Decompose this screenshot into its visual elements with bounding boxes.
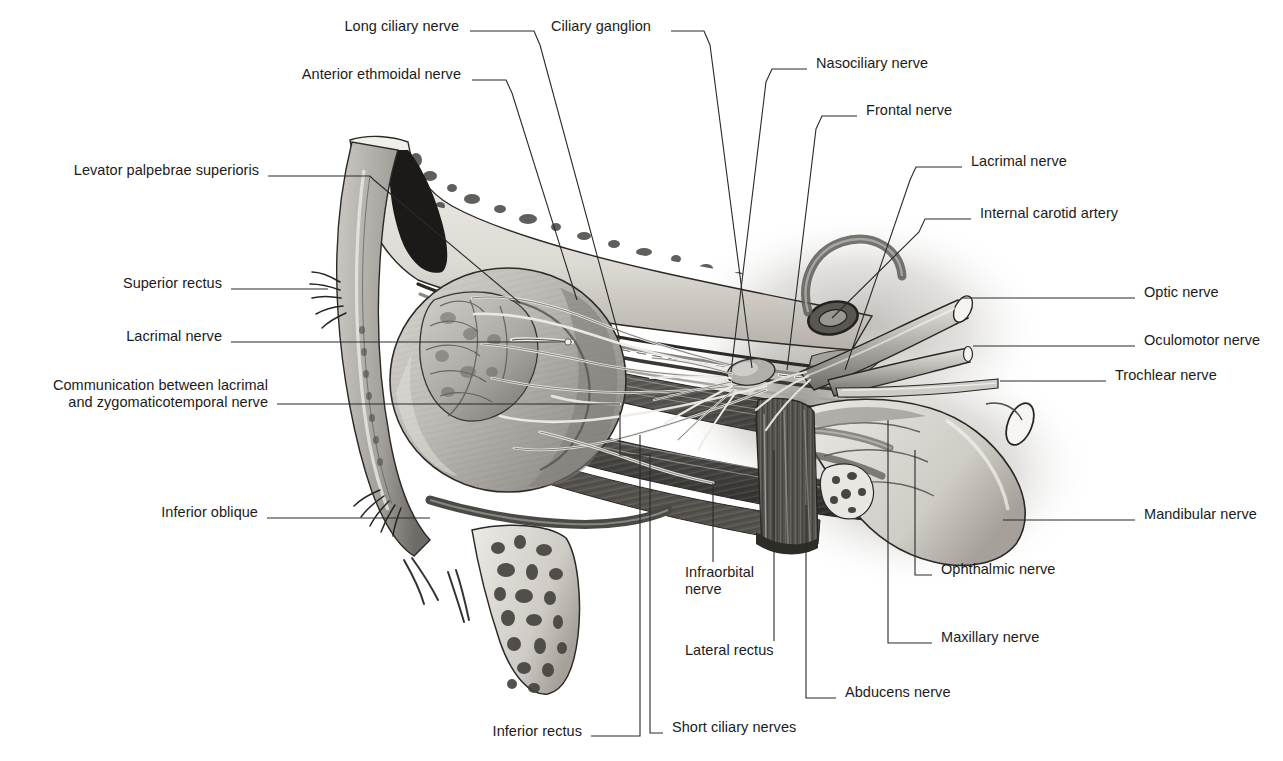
- lateral-rectus-stump: [756, 399, 818, 555]
- label-lacrimal-nerve-left: Lacrimal nerve: [0, 328, 222, 345]
- label-inferior-oblique: Inferior oblique: [0, 504, 258, 521]
- label-lacrimal-nerve-top: Lacrimal nerve: [971, 153, 1067, 170]
- maxilla-bone: [472, 525, 580, 694]
- label-infraorbital-nerve: Infraorbital nerve: [685, 564, 754, 598]
- label-short-ciliary-nerves: Short ciliary nerves: [672, 719, 796, 736]
- label-frontal-nerve: Frontal nerve: [866, 102, 952, 119]
- label-communication-lacrimal-zygomaticotemporal: Communication between lacrimal and zygom…: [0, 377, 268, 411]
- label-lateral-rectus: Lateral rectus: [685, 642, 774, 659]
- label-levator-palpebrae: Levator palpebrae superioris: [0, 162, 259, 179]
- label-optic-nerve: Optic nerve: [1144, 284, 1219, 301]
- label-abducens-nerve: Abducens nerve: [845, 684, 951, 701]
- label-maxillary-nerve: Maxillary nerve: [941, 629, 1039, 646]
- label-ophthalmic-nerve: Ophthalmic nerve: [941, 561, 1055, 578]
- label-long-ciliary-nerve: Long ciliary nerve: [0, 18, 459, 35]
- infraorbital-vessels: [404, 558, 469, 622]
- anatomical-figure: Long ciliary nerveCiliary ganglionNasoci…: [0, 0, 1283, 761]
- label-anterior-ethmoidal-nerve: Anterior ethmoidal nerve: [0, 66, 461, 83]
- label-inferior-rectus: Inferior rectus: [0, 723, 582, 740]
- label-oculomotor-nerve: Oculomotor nerve: [1144, 332, 1260, 349]
- label-superior-rectus: Superior rectus: [0, 275, 222, 292]
- label-nasociliary-nerve: Nasociliary nerve: [816, 55, 928, 72]
- label-mandibular-nerve: Mandibular nerve: [1144, 506, 1257, 523]
- label-ciliary-ganglion: Ciliary ganglion: [551, 18, 651, 35]
- label-trochlear-nerve: Trochlear nerve: [1115, 367, 1217, 384]
- label-internal-carotid-artery: Internal carotid artery: [980, 205, 1118, 222]
